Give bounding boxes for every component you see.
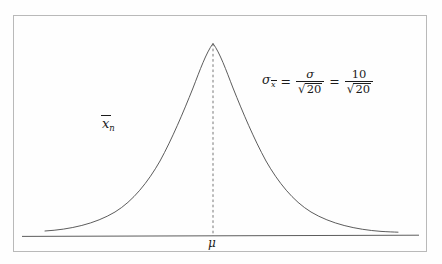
x-axis-line xyxy=(22,235,419,236)
xbar-symbol: x xyxy=(102,116,109,130)
xbar-subscript: n xyxy=(109,123,114,133)
equals-sign-2: = xyxy=(327,76,341,89)
radicand-value: 20 xyxy=(306,83,323,95)
radical-sign: √ xyxy=(298,83,306,95)
standard-error-formula: σx = σ √20 = 10 √20 xyxy=(262,68,373,96)
sigma-symbol: σ xyxy=(262,72,271,87)
fraction-10-over-sqrt20: 10 √20 xyxy=(345,68,373,96)
fraction-denominator-sqrt20: √20 xyxy=(345,82,373,95)
formula-lhs: σx xyxy=(262,74,276,89)
sigma-subscript-xbar: x xyxy=(271,80,276,89)
population-mean-label: μ xyxy=(208,237,216,249)
equals-sign-1: = xyxy=(279,76,293,89)
sampling-distribution-label: xn xyxy=(102,116,115,133)
radicand-value: 20 xyxy=(354,83,371,95)
fraction-numerator-sigma: σ xyxy=(303,68,317,81)
fraction-denominator-sqrt20: √20 xyxy=(296,82,324,95)
fraction-numerator-ten: 10 xyxy=(349,68,370,81)
fraction-sigma-over-sqrt20: σ √20 xyxy=(296,68,324,96)
radical-sign: √ xyxy=(347,83,355,95)
figure-root: xn μ σx = σ √20 = 10 √20 xyxy=(0,0,442,264)
normal-distribution-plot xyxy=(0,0,442,264)
